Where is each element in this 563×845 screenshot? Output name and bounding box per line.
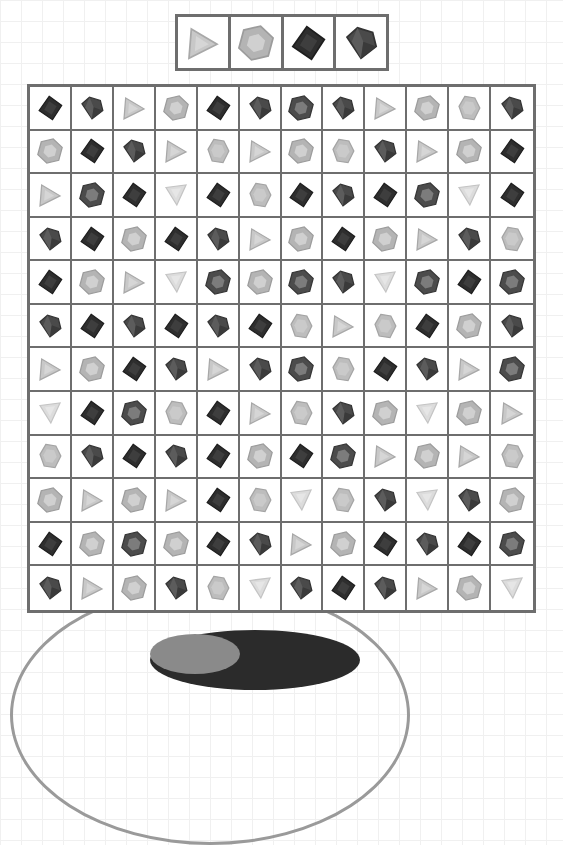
- board-cell[interactable]: [323, 131, 365, 175]
- board-cell[interactable]: [449, 131, 491, 175]
- board-cell[interactable]: [491, 218, 533, 262]
- board-cell[interactable]: [407, 479, 449, 523]
- board-cell[interactable]: [30, 392, 72, 436]
- board-cell[interactable]: [114, 566, 156, 610]
- board-cell[interactable]: [282, 348, 324, 392]
- board-cell[interactable]: [407, 436, 449, 480]
- board-cell[interactable]: [30, 218, 72, 262]
- board-cell[interactable]: [156, 131, 198, 175]
- board-cell[interactable]: [365, 392, 407, 436]
- board-cell[interactable]: [114, 479, 156, 523]
- board-cell[interactable]: [156, 218, 198, 262]
- board-cell[interactable]: [449, 479, 491, 523]
- board-cell[interactable]: [407, 305, 449, 349]
- board-cell[interactable]: [365, 479, 407, 523]
- board-cell[interactable]: [407, 261, 449, 305]
- board-cell[interactable]: [156, 436, 198, 480]
- board-cell[interactable]: [365, 348, 407, 392]
- board-cell[interactable]: [323, 174, 365, 218]
- board-cell[interactable]: [240, 305, 282, 349]
- board-cell[interactable]: [72, 436, 114, 480]
- board-cell[interactable]: [240, 479, 282, 523]
- board-cell[interactable]: [323, 218, 365, 262]
- board-cell[interactable]: [30, 261, 72, 305]
- board-cell[interactable]: [491, 131, 533, 175]
- board-cell[interactable]: [72, 87, 114, 131]
- board-cell[interactable]: [449, 305, 491, 349]
- board-cell[interactable]: [240, 261, 282, 305]
- board-cell[interactable]: [114, 392, 156, 436]
- board-cell[interactable]: [30, 174, 72, 218]
- board-cell[interactable]: [491, 436, 533, 480]
- board-cell[interactable]: [282, 87, 324, 131]
- board-cell[interactable]: [114, 436, 156, 480]
- board-cell[interactable]: [407, 87, 449, 131]
- board-cell[interactable]: [198, 479, 240, 523]
- board-cell[interactable]: [449, 436, 491, 480]
- board-cell[interactable]: [198, 218, 240, 262]
- board-cell[interactable]: [240, 436, 282, 480]
- board-cell[interactable]: [491, 523, 533, 567]
- board-cell[interactable]: [198, 566, 240, 610]
- board-cell[interactable]: [407, 218, 449, 262]
- board-cell[interactable]: [282, 131, 324, 175]
- board-cell[interactable]: [198, 87, 240, 131]
- board-cell[interactable]: [114, 131, 156, 175]
- board-cell[interactable]: [240, 566, 282, 610]
- board-cell[interactable]: [114, 174, 156, 218]
- board-cell[interactable]: [72, 348, 114, 392]
- board-cell[interactable]: [114, 218, 156, 262]
- board-cell[interactable]: [240, 87, 282, 131]
- board-cell[interactable]: [407, 348, 449, 392]
- board-cell[interactable]: [449, 348, 491, 392]
- board-cell[interactable]: [240, 348, 282, 392]
- board-cell[interactable]: [449, 174, 491, 218]
- board-cell[interactable]: [156, 87, 198, 131]
- board-cell[interactable]: [365, 523, 407, 567]
- board-cell[interactable]: [156, 479, 198, 523]
- board-cell[interactable]: [365, 218, 407, 262]
- board-cell[interactable]: [198, 436, 240, 480]
- board-cell[interactable]: [282, 218, 324, 262]
- board-cell[interactable]: [491, 566, 533, 610]
- board-cell[interactable]: [156, 523, 198, 567]
- board-cell[interactable]: [198, 261, 240, 305]
- board-cell[interactable]: [323, 87, 365, 131]
- board-cell[interactable]: [365, 305, 407, 349]
- board-cell[interactable]: [407, 131, 449, 175]
- board-cell[interactable]: [407, 174, 449, 218]
- board-cell[interactable]: [72, 261, 114, 305]
- board-cell[interactable]: [114, 261, 156, 305]
- board-cell[interactable]: [323, 436, 365, 480]
- board-cell[interactable]: [198, 523, 240, 567]
- board-cell[interactable]: [491, 479, 533, 523]
- board-cell[interactable]: [240, 392, 282, 436]
- board-cell[interactable]: [323, 348, 365, 392]
- board-cell[interactable]: [72, 523, 114, 567]
- board-cell[interactable]: [491, 305, 533, 349]
- board-cell[interactable]: [198, 305, 240, 349]
- board-cell[interactable]: [407, 566, 449, 610]
- board-cell[interactable]: [323, 261, 365, 305]
- board-cell[interactable]: [323, 479, 365, 523]
- board-cell[interactable]: [198, 348, 240, 392]
- board-cell[interactable]: [30, 479, 72, 523]
- board-cell[interactable]: [282, 523, 324, 567]
- board-cell[interactable]: [491, 348, 533, 392]
- board-cell[interactable]: [72, 174, 114, 218]
- board-cell[interactable]: [72, 218, 114, 262]
- board-cell[interactable]: [240, 131, 282, 175]
- board-cell[interactable]: [114, 348, 156, 392]
- board-cell[interactable]: [72, 305, 114, 349]
- board-cell[interactable]: [198, 392, 240, 436]
- board-cell[interactable]: [30, 348, 72, 392]
- board-cell[interactable]: [30, 305, 72, 349]
- board-cell[interactable]: [365, 436, 407, 480]
- board-cell[interactable]: [282, 479, 324, 523]
- board-cell[interactable]: [491, 261, 533, 305]
- board-cell[interactable]: [449, 218, 491, 262]
- board-cell[interactable]: [491, 174, 533, 218]
- board-cell[interactable]: [156, 392, 198, 436]
- board-cell[interactable]: [282, 436, 324, 480]
- board-cell[interactable]: [114, 87, 156, 131]
